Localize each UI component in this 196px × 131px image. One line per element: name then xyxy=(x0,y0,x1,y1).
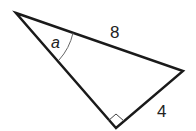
triangle-diagram: 8 a 4 xyxy=(0,0,196,131)
short-leg-label: 4 xyxy=(157,102,166,121)
hypotenuse-label: 8 xyxy=(110,23,119,42)
angle-label: a xyxy=(51,34,60,51)
angle-arc xyxy=(59,33,73,60)
